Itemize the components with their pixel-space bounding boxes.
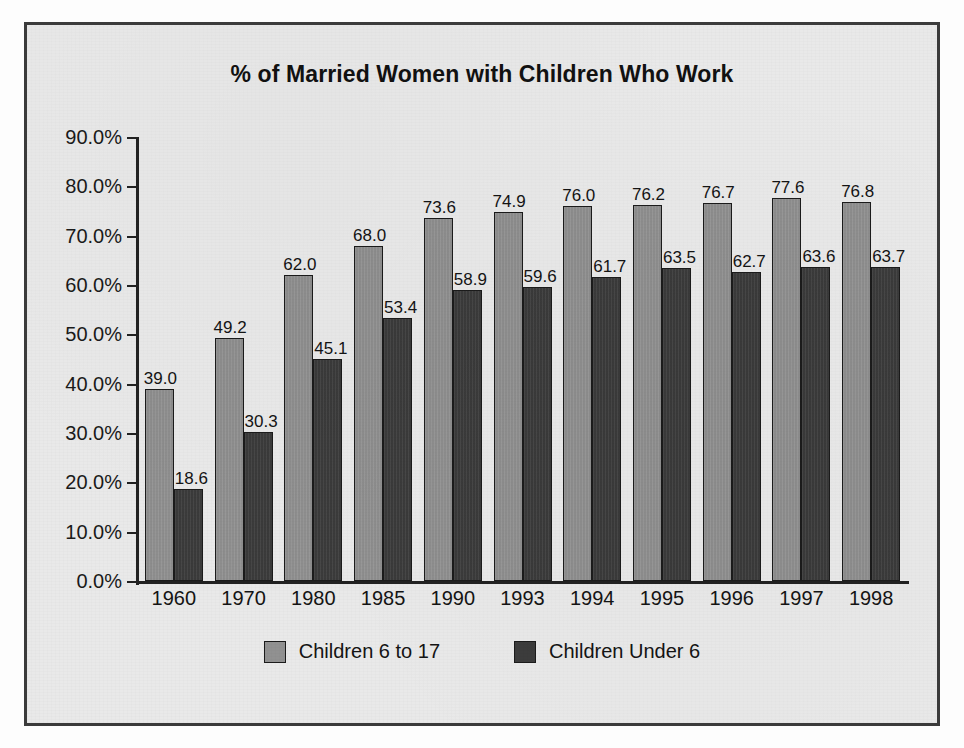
y-axis-tick [127,285,136,287]
bar-value-label: 77.6 [771,179,804,196]
bar[interactable]: 76.2 [633,205,662,581]
x-axis-tick-label: 1970 [209,587,279,610]
x-axis-tick-label: 1993 [488,587,558,610]
bar[interactable]: 61.7 [592,277,621,581]
bar[interactable]: 30.3 [244,432,273,581]
legend-label: Children 6 to 17 [299,640,440,663]
bar[interactable]: 76.0 [563,206,592,581]
chart-frame: % of Married Women with Children Who Wor… [24,22,940,726]
y-axis-tick-label: 30.0% [65,422,122,445]
bar-group: 76.061.7 [563,137,621,581]
bar[interactable]: 49.2 [215,338,244,581]
page-title: % of Married Women with Children Who Wor… [27,61,937,88]
y-axis-tick-label: 70.0% [65,224,122,247]
y-axis-tick-label: 20.0% [65,471,122,494]
y-axis-tick-label: 80.0% [65,175,122,198]
chart-legend: Children 6 to 17Children Under 6 [27,640,937,663]
y-axis-tick-label: 40.0% [65,372,122,395]
bar-value-label: 18.6 [175,470,208,487]
bar-value-label: 30.3 [245,413,278,430]
legend-swatch [514,641,536,663]
bar-value-label: 63.7 [872,248,905,265]
x-axis-tick-label: 1998 [836,587,906,610]
legend-item[interactable]: Children Under 6 [514,640,700,663]
x-axis-tick-label: 1990 [418,587,488,610]
bar-value-label: 59.6 [524,268,557,285]
bar[interactable]: 73.6 [424,218,453,581]
bar-group: 73.658.9 [424,137,482,581]
y-axis-tick-label: 90.0% [65,126,122,149]
x-axis-tick-label: 1994 [557,587,627,610]
bar[interactable]: 62.0 [284,275,313,581]
x-axis-labels: 1960197019801985199019931994199519961997… [139,587,906,617]
bar-value-label: 76.0 [562,187,595,204]
bar[interactable]: 74.9 [494,212,523,582]
y-axis-tick [127,532,136,534]
y-axis-tick-label: 60.0% [65,274,122,297]
x-axis-tick-label: 1996 [697,587,767,610]
bar[interactable]: 76.8 [842,202,871,581]
y-axis-tick-label: 10.0% [65,520,122,543]
bar[interactable]: 63.6 [801,267,830,581]
bar-value-label: 63.5 [663,249,696,266]
bar[interactable]: 59.6 [523,287,552,581]
bar-value-label: 74.9 [493,193,526,210]
bar-group: 39.018.6 [145,137,203,581]
y-axis-tick-label: 0.0% [76,570,122,593]
bar[interactable]: 58.9 [453,290,482,581]
bar-group: 76.263.5 [633,137,691,581]
bar[interactable]: 63.7 [871,267,900,581]
bar-group: 76.762.7 [703,137,761,581]
bar[interactable]: 77.6 [772,198,801,581]
bar-value-label: 62.7 [733,253,766,270]
bar-group: 49.230.3 [215,137,273,581]
plot-area: 90.0%80.0%70.0%60.0%50.0%40.0%30.0%20.0%… [136,137,906,581]
bar-value-label: 61.7 [593,258,626,275]
bar-value-label: 53.4 [384,299,417,316]
x-axis-line [136,581,909,584]
legend-item[interactable]: Children 6 to 17 [264,640,440,663]
bar-value-label: 76.2 [632,186,665,203]
bar[interactable]: 39.0 [145,389,174,581]
bar-series-container: 39.018.649.230.362.045.168.053.473.658.9… [139,137,906,581]
y-axis-tick [127,581,136,583]
bar-group: 68.053.4 [354,137,412,581]
x-axis-tick-label: 1960 [139,587,209,610]
y-axis-tick [127,482,136,484]
y-axis-tick [127,186,136,188]
bar-group: 76.863.7 [842,137,900,581]
y-axis-tick [127,433,136,435]
legend-label: Children Under 6 [549,640,700,663]
bar-group: 74.959.6 [494,137,552,581]
bar-group: 62.045.1 [284,137,342,581]
y-axis-tick [127,137,136,139]
bar[interactable]: 63.5 [662,268,691,581]
bar-value-label: 76.7 [702,184,735,201]
x-axis-tick-label: 1997 [767,587,837,610]
bar[interactable]: 76.7 [703,203,732,581]
bar[interactable]: 62.7 [732,272,761,581]
bar-value-label: 49.2 [214,319,247,336]
y-axis-tick [127,384,136,386]
bar-value-label: 68.0 [353,227,386,244]
bar-value-label: 63.6 [802,248,835,265]
legend-swatch [264,641,286,663]
y-axis-tick [127,334,136,336]
x-axis-tick-label: 1985 [348,587,418,610]
bar-value-label: 62.0 [283,256,316,273]
scanned-page: % of Married Women with Children Who Wor… [0,0,964,748]
bar-group: 77.663.6 [772,137,830,581]
bar-value-label: 39.0 [144,370,177,387]
bar-value-label: 76.8 [841,183,874,200]
bar[interactable]: 68.0 [354,246,383,581]
bar[interactable]: 45.1 [313,359,342,581]
bar-value-label: 58.9 [454,271,487,288]
bar-value-label: 45.1 [314,340,347,357]
bar[interactable]: 53.4 [383,318,412,581]
y-axis-tick-label: 50.0% [65,323,122,346]
bar-value-label: 73.6 [423,199,456,216]
bar[interactable]: 18.6 [174,489,203,581]
y-axis-tick [127,236,136,238]
x-axis-tick-label: 1995 [627,587,697,610]
x-axis-tick-label: 1980 [278,587,348,610]
